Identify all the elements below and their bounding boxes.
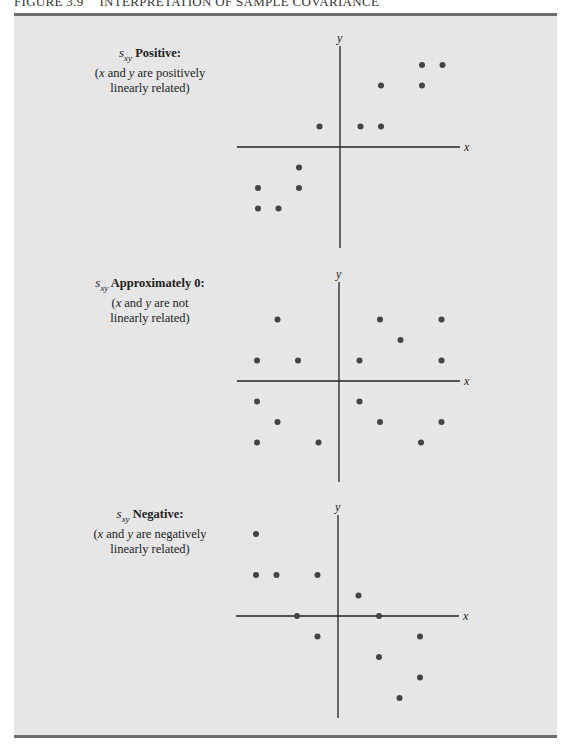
data-point — [275, 419, 281, 425]
data-point — [419, 83, 425, 89]
data-point — [254, 399, 260, 405]
data-point — [295, 358, 301, 364]
data-point — [397, 695, 403, 701]
data-point — [316, 440, 322, 446]
data-point — [357, 358, 363, 364]
data-point — [417, 675, 423, 681]
data-point — [315, 634, 321, 640]
x-axis-label: x — [463, 140, 470, 154]
data-point — [253, 572, 259, 578]
y-axis-label: y — [336, 31, 343, 45]
x-axis-label: x — [463, 374, 470, 388]
data-point — [357, 399, 363, 405]
data-point — [294, 613, 300, 619]
data-point — [254, 440, 260, 446]
data-point — [274, 572, 280, 578]
scatter-plots: xy xy xy — [0, 0, 567, 752]
data-point — [377, 419, 383, 425]
data-point — [439, 358, 445, 364]
scatter-plot-positive: xy — [237, 31, 470, 248]
y-axis-label: y — [335, 267, 342, 281]
data-point — [296, 185, 302, 191]
data-point — [358, 124, 364, 130]
data-point — [377, 317, 383, 323]
data-point — [439, 317, 445, 323]
data-point — [255, 206, 261, 212]
data-point — [439, 419, 445, 425]
x-axis-label: x — [462, 609, 469, 623]
scatter-plot-negative: xy — [236, 500, 469, 718]
data-point — [275, 317, 281, 323]
data-point — [253, 531, 259, 537]
data-point — [255, 185, 261, 191]
y-axis-label: y — [334, 500, 341, 514]
data-point — [418, 440, 424, 446]
data-point — [378, 83, 384, 89]
data-point — [419, 62, 425, 68]
data-point — [417, 634, 423, 640]
data-point — [296, 165, 302, 171]
data-point — [376, 613, 382, 619]
data-point — [254, 358, 260, 364]
data-point — [356, 593, 362, 599]
data-point — [440, 62, 446, 68]
data-point — [376, 654, 382, 660]
data-point — [317, 124, 323, 130]
data-point — [276, 206, 282, 212]
data-point — [315, 572, 321, 578]
scatter-plot-approx-zero: xy — [237, 267, 470, 482]
data-point — [398, 337, 404, 343]
data-point — [378, 124, 384, 130]
